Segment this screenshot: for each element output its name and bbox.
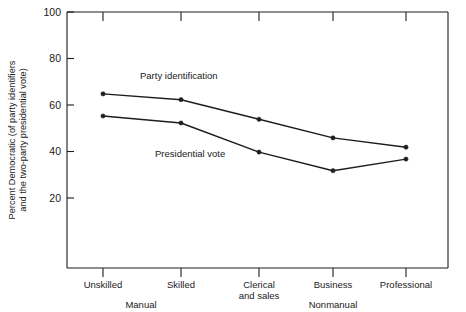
x-axis-ticks-top: [103, 12, 406, 21]
x-axis-ticks: [103, 268, 406, 277]
x-tick-label-skilled: Skilled: [167, 279, 195, 290]
data-point: [179, 98, 183, 102]
x-tick-label-business: Business: [314, 279, 353, 290]
data-point: [101, 92, 105, 96]
y-tick-label-60: 60: [49, 99, 61, 111]
x-tick-label-professional: Professional: [380, 279, 432, 290]
data-point: [257, 117, 261, 121]
data-point: [331, 136, 335, 140]
y-axis-title-line2: and the two-party presidential vote): [18, 68, 28, 212]
data-point: [331, 169, 335, 173]
y-axis-title: Percent Democratic (of party identifiers…: [7, 60, 28, 219]
data-point: [404, 145, 408, 149]
x-tick-label-clerical-line2: and sales: [239, 290, 280, 301]
x-tick-label-clerical: Clerical: [243, 279, 275, 290]
series-line-presidential-vote: [103, 116, 406, 171]
data-point: [404, 157, 408, 161]
y-tick-label-40: 40: [49, 145, 61, 157]
y-tick-label-80: 80: [49, 52, 61, 64]
line-chart: 20 40 60 80 100 Percent Democratic (of p…: [0, 0, 466, 312]
series-presidential-vote: [101, 114, 408, 173]
x-axis-tick-labels: Unskilled Skilled Clerical and sales Bus…: [84, 279, 432, 301]
y-axis-tick-labels: 20 40 60 80 100: [43, 6, 61, 204]
data-point: [101, 114, 105, 118]
group-label-nonmanual: Nonmanual: [309, 299, 358, 310]
series-annotation-party-identification: Party identification: [140, 70, 218, 81]
chart-container: 20 40 60 80 100 Percent Democratic (of p…: [0, 0, 466, 312]
y-axis-ticks: [67, 12, 74, 198]
y-tick-label-100: 100: [43, 6, 61, 18]
data-point: [257, 150, 261, 154]
x-tick-label-unskilled: Unskilled: [84, 279, 123, 290]
data-point: [179, 121, 183, 125]
y-axis-title-line1: Percent Democratic (of party identifiers: [7, 60, 17, 219]
group-label-manual: Manual: [125, 299, 156, 310]
series-annotation-presidential-vote: Presidential vote: [155, 148, 225, 159]
y-tick-label-20: 20: [49, 192, 61, 204]
